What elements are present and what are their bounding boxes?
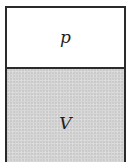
pressure-label: p <box>60 29 71 46</box>
pressure-region: p <box>7 8 124 67</box>
volume-region: V <box>7 69 124 162</box>
pressure-volume-diagram: p V <box>0 0 132 162</box>
volume-label: V <box>59 115 71 132</box>
vessel-container: p V <box>5 6 126 162</box>
